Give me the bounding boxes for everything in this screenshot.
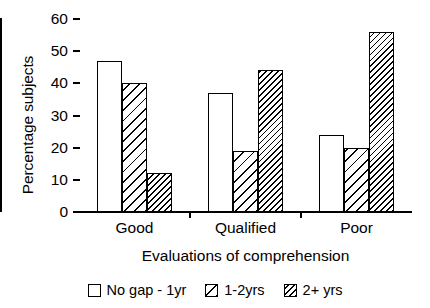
y-tick-mark	[73, 50, 80, 52]
y-tick-label: 30	[28, 108, 68, 124]
y-tick-label: 40	[28, 75, 68, 91]
bar	[344, 148, 369, 212]
y-tick-label: 50	[28, 43, 68, 59]
legend-label: No gap - 1yr	[107, 282, 187, 298]
bar	[319, 135, 344, 212]
y-tick-mark	[73, 147, 80, 149]
y-tick-mark	[73, 179, 80, 181]
legend-swatch-icon	[205, 284, 218, 297]
legend-item: No gap - 1yr	[88, 282, 187, 298]
x-tick-label: Good	[80, 219, 190, 237]
legend-label: 1-2yrs	[224, 282, 264, 298]
bar	[258, 70, 283, 212]
chart-legend: No gap - 1yr1-2yrs2+ yrs	[0, 282, 430, 298]
bar	[208, 93, 233, 212]
y-tick-label: 10	[28, 172, 68, 188]
bar-chart-figure: Percentage subjects 0102030405060 GoodQu…	[0, 0, 430, 308]
y-tick-label: 0	[28, 204, 68, 220]
y-tick-mark	[73, 82, 80, 84]
bar	[97, 61, 122, 212]
x-tick-mark	[189, 211, 191, 218]
bar	[122, 83, 147, 212]
y-tick-label: 60	[28, 11, 68, 27]
legend-swatch-icon	[284, 284, 297, 297]
y-tick-mark	[73, 115, 80, 117]
x-tick-label: Poor	[302, 219, 412, 237]
y-tick-mark	[73, 211, 80, 213]
legend-item: 1-2yrs	[205, 282, 264, 298]
legend-label: 2+ yrs	[303, 282, 343, 298]
bar	[147, 173, 172, 212]
x-tick-mark	[300, 211, 302, 218]
x-axis-title: Evaluations of comprehension	[79, 247, 412, 265]
bar	[233, 151, 258, 212]
legend-swatch-icon	[88, 284, 101, 297]
x-tick-label: Qualified	[191, 219, 301, 237]
y-tick-mark	[73, 18, 80, 20]
y-tick-label: 20	[28, 140, 68, 156]
legend-item: 2+ yrs	[284, 282, 343, 298]
bar	[369, 32, 394, 212]
y-axis-line	[0, 18, 2, 212]
